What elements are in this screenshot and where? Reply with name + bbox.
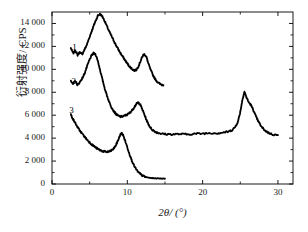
x-tick-label: 0 xyxy=(46,187,58,197)
curve-label-3: 3 xyxy=(69,105,74,115)
y-tick-label: 12 000 xyxy=(0,40,45,50)
x-axis-label-text: 2θ/ (°) xyxy=(158,206,186,218)
x-tick-label: 20 xyxy=(197,187,209,197)
y-tick-label: 8 000 xyxy=(0,86,45,96)
y-tick-label: 0 xyxy=(0,178,45,188)
y-tick-label: 14 000 xyxy=(0,17,45,27)
curve-label-2: 2 xyxy=(72,76,77,86)
y-tick-label: 4 000 xyxy=(0,132,45,142)
x-axis-label: 2θ/ (°) xyxy=(52,206,293,218)
curve-label-1: 1 xyxy=(72,42,77,52)
x-tick-label: 10 xyxy=(121,187,133,197)
y-tick-label: 2 000 xyxy=(0,155,45,165)
x-tick-label: 30 xyxy=(272,187,284,197)
y-tick-label: 6 000 xyxy=(0,109,45,119)
xrd-chart: 123 xyxy=(0,0,308,232)
chart-background xyxy=(0,0,308,232)
y-tick-label: 10 000 xyxy=(0,63,45,73)
